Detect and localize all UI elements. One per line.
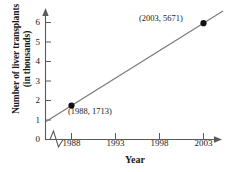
data-point-2003 xyxy=(200,20,206,26)
x-axis-title: Year xyxy=(60,154,210,165)
y-tick-label-3: 3 xyxy=(26,76,40,86)
data-point-label-2003: (2003, 5671) xyxy=(139,13,183,23)
x-tick-label-2003: 2003 xyxy=(187,138,221,148)
y-axis-arrow-icon xyxy=(42,8,48,16)
y-tick-label-2: 2 xyxy=(26,95,40,105)
chart-container: Number of liver transplants (in thousand… xyxy=(0,0,227,172)
data-point-label-1988: (1988, 1713) xyxy=(68,106,112,116)
y-axis-title-line1: Number of liver transplants xyxy=(11,0,22,124)
y-tick-label-4: 4 xyxy=(26,56,40,66)
y-tick-label-5: 5 xyxy=(26,37,40,47)
y-tick-label-1: 1 xyxy=(26,115,40,125)
x-tick-label-1993: 1993 xyxy=(99,138,133,148)
y-tick-label-0: 0 xyxy=(26,134,40,144)
x-tick-label-1998: 1998 xyxy=(143,138,177,148)
y-tick-label-6: 6 xyxy=(26,17,40,27)
x-tick-label-1988: 1988 xyxy=(55,138,89,148)
